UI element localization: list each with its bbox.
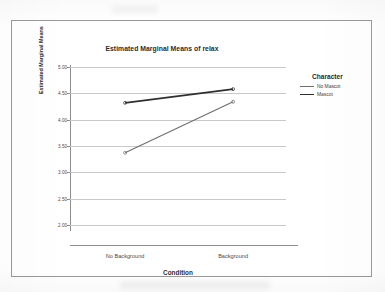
plot-area: 5.004.504.003.503.002.502.00 No Backgrou… bbox=[70, 67, 286, 225]
y-tick-label: 2.50 bbox=[37, 197, 67, 202]
x-axis-title: Condition bbox=[70, 269, 286, 276]
series-line bbox=[125, 102, 233, 153]
x-tick-label: Background bbox=[187, 253, 279, 259]
legend-label: Mascot bbox=[317, 92, 333, 97]
chart-title: Estimated Marginal Means of relax bbox=[12, 45, 312, 52]
figure-frame: Estimated Marginal Means of relax Estima… bbox=[11, 20, 372, 277]
series-lines bbox=[70, 67, 286, 225]
series-line bbox=[125, 89, 233, 103]
x-tick-label: No Background bbox=[79, 253, 171, 259]
y-tick-label: 5.00 bbox=[37, 65, 67, 70]
legend-item[interactable]: No Mascot bbox=[300, 84, 385, 89]
y-axis-title: Estimated Marginal Means bbox=[38, 26, 44, 94]
legend: Character No MascotMascot bbox=[300, 73, 385, 97]
legend-label: No Mascot bbox=[317, 84, 340, 89]
legend-line-swatch bbox=[300, 94, 314, 95]
scan-smudge-top bbox=[112, 5, 158, 14]
legend-rows: No MascotMascot bbox=[300, 84, 385, 97]
legend-item[interactable]: Mascot bbox=[300, 92, 385, 97]
x-axis-line bbox=[70, 245, 298, 246]
y-tick-mark bbox=[67, 225, 70, 226]
gridline bbox=[70, 225, 286, 226]
y-tick-label: 2.00 bbox=[37, 223, 67, 228]
legend-line-swatch bbox=[300, 86, 314, 87]
y-tick-label: 3.00 bbox=[37, 170, 67, 175]
y-tick-label: 4.00 bbox=[37, 118, 67, 123]
scan-smudge-bottom bbox=[120, 281, 270, 289]
legend-title: Character bbox=[300, 73, 385, 80]
y-tick-label: 4.50 bbox=[37, 91, 67, 96]
y-tick-label: 3.50 bbox=[37, 144, 67, 149]
